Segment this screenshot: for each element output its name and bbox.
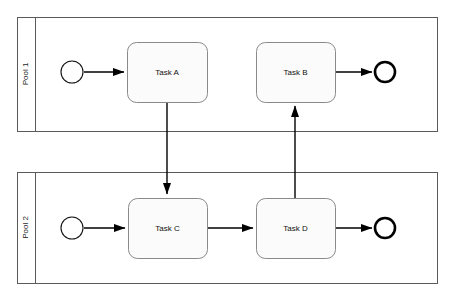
task-task-d[interactable]: Task D — [257, 199, 336, 259]
task-task-c[interactable]: Task C — [129, 199, 208, 259]
task-label: Task B — [283, 68, 307, 77]
start-event-start1[interactable] — [61, 61, 83, 83]
task-task-a[interactable]: Task A — [128, 43, 208, 103]
pool-label: Pool 2 — [21, 216, 30, 239]
end-event-end1[interactable] — [375, 62, 395, 82]
end-event-end2[interactable] — [375, 218, 395, 238]
diagram-canvas: Pool 1Pool 2 Task ATask BTask CTask D — [0, 0, 453, 299]
task-label: Task C — [155, 224, 180, 233]
task-label: Task A — [155, 68, 179, 77]
bpmn-diagram: Pool 1Pool 2 Task ATask BTask CTask D — [0, 0, 453, 299]
pool-label: Pool 1 — [21, 62, 30, 85]
task-task-b[interactable]: Task B — [257, 43, 336, 103]
task-label: Task D — [283, 224, 308, 233]
pools-layer: Pool 1Pool 2 — [18, 18, 438, 284]
start-event-start2[interactable] — [61, 217, 83, 239]
